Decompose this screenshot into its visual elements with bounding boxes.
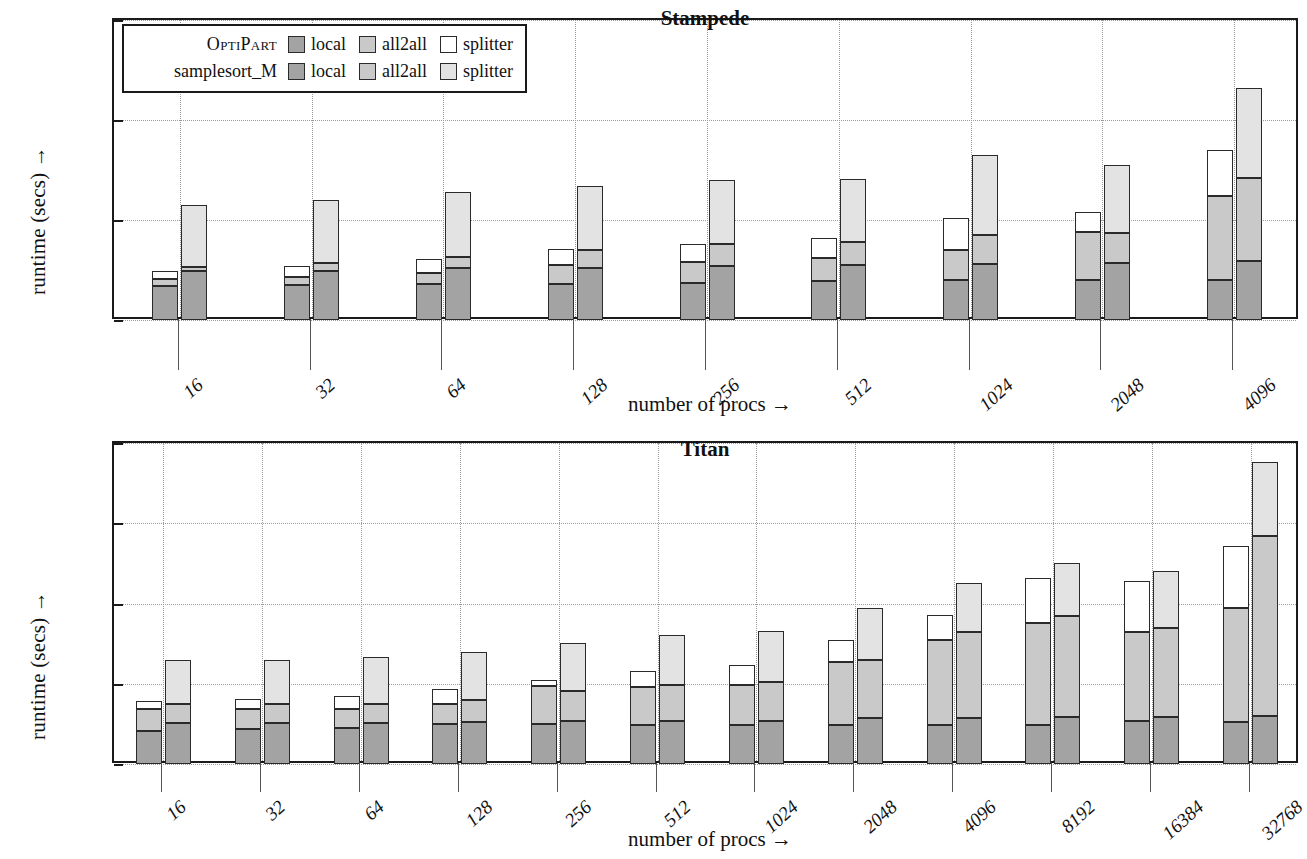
x-tick-mark [1232, 319, 1233, 370]
bar-optipart [548, 20, 574, 317]
y-axis-label-top: runtime (secs) → [26, 146, 51, 295]
bar-samplesort-m [709, 20, 735, 317]
bar-segment-splitter [531, 680, 557, 686]
x-tick-mark [260, 763, 261, 792]
bar-segment-all2all [972, 235, 998, 264]
bar-segment-splitter [943, 218, 969, 250]
bar-segment-all2all [1075, 232, 1101, 280]
x-tick-mark [441, 319, 442, 370]
bar-segment-splitter [758, 631, 784, 682]
legend-swatch-all2all [359, 36, 376, 53]
bar-segment-local [577, 268, 603, 320]
bar-segment-all2all [363, 704, 389, 723]
bar-segment-all2all [828, 662, 854, 725]
bar-segment-splitter [659, 635, 685, 685]
bar-segment-splitter [828, 640, 854, 662]
bar-segment-all2all [1124, 632, 1150, 722]
bar-segment-all2all [560, 691, 586, 721]
bar-samplesort-m [264, 443, 290, 761]
bar-segment-local [416, 284, 442, 320]
bar-segment-all2all [927, 640, 953, 726]
legend-label-splitter: splitter [463, 34, 513, 55]
x-tick-mark [705, 319, 706, 370]
x-tick-mark [969, 319, 970, 370]
bar-segment-splitter [1025, 578, 1051, 623]
bar-segment-local [152, 286, 178, 320]
bar-segment-all2all [445, 257, 471, 268]
y-tick-mark [114, 120, 123, 122]
bar-segment-splitter [560, 643, 586, 691]
bar-segment-local [1252, 716, 1278, 764]
bar-samplesort-m [1153, 443, 1179, 761]
bar-segment-splitter [680, 244, 706, 262]
legend-label-all2all: all2all [382, 34, 427, 55]
bar-optipart [729, 443, 755, 761]
bar-samplesort-m [857, 443, 883, 761]
bar-segment-splitter [363, 657, 389, 704]
bar-segment-all2all [152, 279, 178, 286]
bar-segment-splitter [1075, 212, 1101, 232]
bar-segment-local [560, 721, 586, 764]
x-tick-label: 8192 [1057, 796, 1100, 838]
bar-samplesort-m [363, 443, 389, 761]
bar-segment-local [334, 728, 360, 764]
bar-segment-splitter [1236, 88, 1262, 178]
bar-segment-local [1124, 721, 1150, 764]
y-tick-mark [114, 764, 123, 766]
y-tick-mark [114, 523, 123, 525]
bar-segment-all2all [1223, 608, 1249, 722]
bar-segment-local [313, 271, 339, 320]
x-tick-label: 1024 [974, 374, 1017, 416]
bar-segment-local [1104, 263, 1130, 320]
bar-segment-local [461, 722, 487, 764]
bar-segment-all2all [136, 709, 162, 731]
bar-samplesort-m [165, 443, 191, 761]
bar-segment-all2all [709, 244, 735, 266]
bar-segment-splitter [136, 701, 162, 710]
x-tick-mark [178, 319, 179, 370]
bar-segment-local [857, 718, 883, 764]
bar-segment-local [1223, 722, 1249, 764]
x-tick-label: 64 [360, 796, 389, 825]
bar-segment-splitter [1207, 150, 1233, 196]
x-tick-mark [359, 763, 360, 792]
bar-optipart [828, 443, 854, 761]
bar-optipart [927, 443, 953, 761]
bar-segment-local [235, 729, 261, 764]
bar-segment-splitter [630, 671, 656, 687]
bar-segment-all2all [334, 709, 360, 728]
bar-segment-splitter [235, 699, 261, 709]
bar-segment-local [828, 725, 854, 764]
bar-segment-local [972, 264, 998, 320]
bar-segment-splitter [1104, 165, 1130, 233]
x-tick-label: 16 [179, 374, 208, 403]
y-gridline [114, 604, 1296, 605]
bar-segment-all2all [548, 265, 574, 284]
panel-title-titan: Titan [112, 437, 1298, 462]
legend-swatch-local [288, 63, 305, 80]
x-tick-label: 32 [311, 374, 340, 403]
bar-segment-all2all [1054, 616, 1080, 717]
bar-optipart [630, 443, 656, 761]
bar-segment-local [680, 283, 706, 320]
bar-samplesort-m [840, 20, 866, 317]
x-tick-mark [837, 319, 838, 370]
bar-samplesort-m [560, 443, 586, 761]
bar-segment-all2all [1104, 233, 1130, 263]
bar-segment-local [630, 725, 656, 764]
bar-optipart [136, 443, 162, 761]
bar-segment-all2all [659, 685, 685, 721]
bar-segment-local [432, 724, 458, 764]
bar-segment-all2all [264, 704, 290, 723]
x-tick-label: 32 [261, 796, 290, 825]
bar-segment-all2all [1153, 628, 1179, 717]
bar-segment-local [445, 268, 471, 320]
y-tick-mark [114, 220, 123, 222]
legend-series-name: samplesort_M [136, 61, 288, 82]
bar-segment-local [548, 284, 574, 320]
legend-row: OptiPartlocalall2allsplitter [136, 31, 513, 58]
bar-segment-splitter [461, 652, 487, 699]
bar-segment-splitter [1223, 546, 1249, 609]
bar-segment-all2all [181, 267, 207, 271]
x-axis-label-bottom: number of procs → [460, 827, 960, 852]
